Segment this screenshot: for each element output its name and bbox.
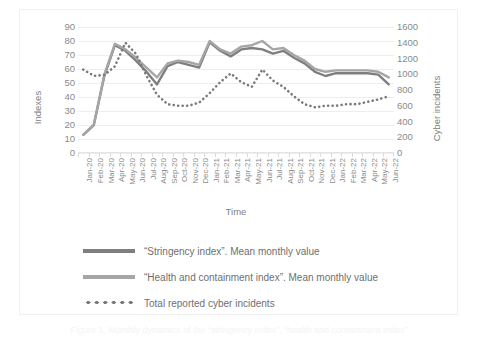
x-tickmark <box>268 153 269 157</box>
x-axis-tick-labels: Jan-20Feb-20Mar-20Apr-20May-20Jun-20Jul-… <box>78 158 394 204</box>
x-axis-title: Time <box>78 206 394 217</box>
x-tickmark <box>141 153 142 157</box>
x-tickmark <box>331 153 332 157</box>
x-tickmark <box>204 153 205 157</box>
x-tick-label: Apr-20 <box>118 158 126 182</box>
legend-item-stringency: “Stringency index”. Mean monthly value <box>20 238 459 264</box>
x-tick-label: Mar-20 <box>108 158 116 183</box>
y-tick-right: 0 <box>397 148 402 158</box>
x-tickmark <box>362 153 363 157</box>
x-tick-label: Jan-20 <box>86 158 94 182</box>
x-tickmark <box>215 153 216 157</box>
y-tick-left: 90 <box>64 22 75 32</box>
y-axis-right-title: Cyber incidents <box>426 48 448 168</box>
x-tick-label: Nov-20 <box>192 158 200 184</box>
x-tick-label: Sep-20 <box>171 158 179 184</box>
x-tickmark <box>236 153 237 157</box>
y-tick-right: 600 <box>397 101 413 111</box>
y-tick-right: 1000 <box>397 70 418 80</box>
x-tick-label: May-20 <box>129 158 137 185</box>
legend-label-stringency: “Stringency index”. Mean monthly value <box>144 246 320 257</box>
y-tick-right: 400 <box>397 117 413 127</box>
y-tick-right: 1200 <box>397 54 418 64</box>
x-tickmark <box>393 153 394 157</box>
y-tick-left: 60 <box>64 64 75 74</box>
y-tick-left: 30 <box>64 106 75 116</box>
x-tick-label: Jun-20 <box>139 158 147 182</box>
x-tickmark <box>341 153 342 157</box>
series-lines <box>78 27 394 153</box>
x-tick-label: Mar-21 <box>234 158 242 183</box>
chart-legend: “Stringency index”. Mean monthly value “… <box>20 238 459 316</box>
y-tick-left: 20 <box>64 120 75 130</box>
x-tickmark <box>278 153 279 157</box>
x-tick-label: Oct-20 <box>181 158 189 182</box>
x-tick-label: Feb-22 <box>350 158 358 183</box>
x-tickmark <box>152 153 153 157</box>
x-tickmark <box>120 153 121 157</box>
y-tick-left: 80 <box>64 36 75 46</box>
x-tick-label: Jan-22 <box>339 158 347 182</box>
y-axis-left-title-label: Indexes <box>33 91 44 124</box>
x-tick-label: Dec-21 <box>329 158 337 184</box>
legend-label-health-containment: “Health and containment index”. Mean mon… <box>144 272 378 283</box>
x-tick-label: Jul-21 <box>276 158 284 180</box>
x-tick-label: Apr-21 <box>244 158 252 182</box>
x-tick-label: Sep-21 <box>297 158 305 184</box>
figure-caption: Figure 1. Monthly dynamics of the “strin… <box>0 325 478 337</box>
x-tick-label: Aug-20 <box>160 158 168 184</box>
x-tick-label: Jun-21 <box>266 158 274 182</box>
x-tickmark <box>257 153 258 157</box>
x-tickmark <box>194 153 195 157</box>
x-tick-label: Jun-22 <box>392 158 400 182</box>
x-tickmark <box>299 153 300 157</box>
y-axis-left-ticks: 0102030405060708090 <box>49 27 75 153</box>
x-tickmark <box>78 153 79 157</box>
x-tick-label: May-21 <box>255 158 263 185</box>
x-tickmark <box>183 153 184 157</box>
x-tickmark <box>352 153 353 157</box>
y-tick-left: 10 <box>64 134 75 144</box>
legend-item-health-containment: “Health and containment index”. Mean mon… <box>20 264 459 290</box>
x-tickmark <box>162 153 163 157</box>
legend-label-cyber-incidents: Total reported cyber incidents <box>144 298 275 309</box>
plot-region: Indexes Cyber incidents 0102030405060708… <box>20 10 459 210</box>
y-tick-left: 40 <box>64 92 75 102</box>
x-tickmark <box>310 153 311 157</box>
y-tick-right: 200 <box>397 133 413 143</box>
y-tick-right: 800 <box>397 85 413 95</box>
chart-screenshot: Indexes Cyber incidents 0102030405060708… <box>0 0 478 337</box>
y-tick-left: 50 <box>64 78 75 88</box>
x-tickmark <box>320 153 321 157</box>
legend-item-cyber-incidents: Total reported cyber incidents <box>20 290 459 316</box>
legend-swatch-cyber-incidents-icon <box>83 297 135 309</box>
y-tick-right: 1600 <box>397 22 418 32</box>
plot-area <box>78 27 394 153</box>
x-tick-label: Jul-20 <box>150 158 158 180</box>
series-line-0 <box>83 42 388 134</box>
x-tick-label: Oct-21 <box>308 158 316 182</box>
x-tickmark <box>383 153 384 157</box>
x-tick-label: Feb-20 <box>97 158 105 183</box>
x-tick-label: Feb-21 <box>223 158 231 183</box>
x-tickmark <box>99 153 100 157</box>
y-tick-right: 1400 <box>397 38 418 48</box>
x-tickmark <box>225 153 226 157</box>
x-tickmark <box>110 153 111 157</box>
x-tick-label: Aug-21 <box>287 158 295 184</box>
x-tickmark <box>173 153 174 157</box>
y-tick-left: 70 <box>64 50 75 60</box>
legend-swatch-stringency-icon <box>83 245 135 257</box>
x-tick-label: Jan-21 <box>213 158 221 182</box>
x-tickmark <box>289 153 290 157</box>
y-axis-right-title-label: Cyber incidents <box>432 75 443 140</box>
x-tick-label: Nov-21 <box>318 158 326 184</box>
x-tickmark <box>247 153 248 157</box>
x-tick-label: Dec-20 <box>202 158 210 184</box>
x-tickmark <box>89 153 90 157</box>
y-axis-right-ticks: 02004006008001000120014001600 <box>397 27 423 153</box>
x-tick-label: Apr-22 <box>371 158 379 182</box>
legend-swatch-health-containment-icon <box>83 271 135 283</box>
y-tick-left: 0 <box>70 148 75 158</box>
x-tickmark <box>131 153 132 157</box>
